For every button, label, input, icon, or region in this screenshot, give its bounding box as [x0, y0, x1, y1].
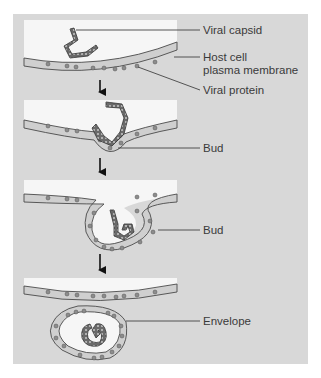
label-viral-capsid: Viral capsid — [203, 24, 262, 37]
virus-budding-diagram: Viral capsid Host cell plasma membrane V… — [0, 0, 321, 378]
label-host-cell: Host cell — [203, 51, 247, 64]
label-envelope: Envelope — [203, 315, 251, 328]
label-bud-stage3: Bud — [203, 224, 223, 237]
label-viral-protein: Viral protein — [203, 84, 264, 97]
stage-1 — [24, 20, 177, 71]
diagram-canvas — [0, 0, 321, 378]
label-bud-stage2: Bud — [203, 142, 223, 155]
label-plasma-membrane: plasma membrane — [203, 64, 298, 77]
